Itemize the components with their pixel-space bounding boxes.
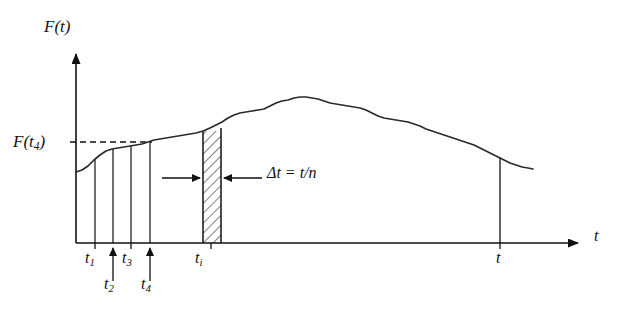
tick-label-t2: t2 [104, 276, 114, 294]
tick-label-t2-subscript: 2 [108, 282, 113, 294]
tick-label-t-end: t [496, 250, 500, 266]
tick-label-t1: t1 [85, 250, 95, 268]
y-value-main: F(t [13, 132, 34, 151]
delta-t-annotation: Δt = t/n [267, 165, 317, 181]
y-value-label: F(t4) [13, 133, 45, 153]
tick-label-t3-subscript: 3 [126, 256, 131, 268]
response-curve [76, 97, 533, 172]
y-axis-label: F(t) [44, 18, 70, 35]
tick-label-t4-subscript: 4 [145, 282, 150, 294]
tick-label-t4: t4 [141, 276, 151, 294]
figure-canvas: F(t) F(t4) t1 t2 t3 t4 ti t t Δt = t/n [0, 0, 628, 315]
tick-label-t1-subscript: 1 [89, 256, 94, 268]
tick-label-ti: ti [195, 250, 202, 268]
tick-label-ti-subscript: i [199, 256, 202, 268]
x-axis-label: t [594, 228, 598, 244]
tick-label-t3: t3 [122, 250, 132, 268]
y-value-close: ) [40, 132, 46, 151]
hatched-strip [203, 131, 221, 243]
